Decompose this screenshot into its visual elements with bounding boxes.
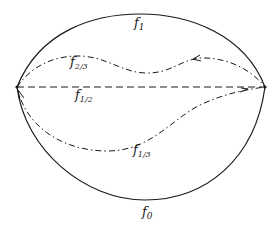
curve-f2-3 (17, 56, 265, 87)
endpoint-right (263, 85, 266, 88)
homotopy-diagram: f1 f2/3 f1/2 f1/3 f0 (0, 0, 275, 235)
label-f0: f0 (141, 204, 153, 221)
label-f1-3: f1/3 (132, 142, 151, 159)
label-f1: f1 (133, 15, 145, 32)
endpoint-left (15, 85, 18, 88)
curve-f1-3 (17, 87, 265, 151)
label-f2-3: f2/3 (69, 54, 88, 71)
label-f1-2: f1/2 (74, 87, 93, 104)
curve-f0 (17, 87, 265, 200)
